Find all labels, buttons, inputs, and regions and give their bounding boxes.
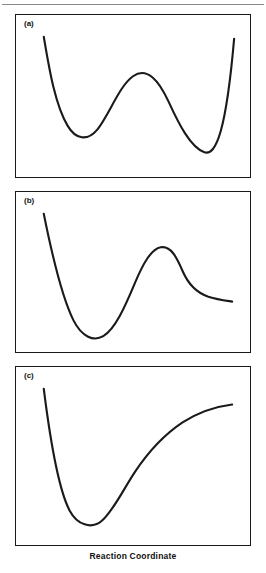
panel-b-label: (b)	[24, 196, 34, 206]
panel-a: (a)	[15, 14, 251, 178]
figure-potential-energy-curves: (a) (b) (c) Reaction Coordinate	[0, 0, 266, 573]
panel-a-curve	[16, 15, 250, 177]
panel-c-label: (c)	[24, 371, 34, 381]
x-axis-label: Reaction Coordinate	[0, 551, 266, 561]
panel-a-label: (a)	[24, 19, 34, 29]
panel-b-curve	[16, 192, 250, 352]
panel-b: (b)	[15, 191, 251, 353]
panel-c: (c)	[15, 366, 251, 546]
panel-c-curve	[16, 367, 250, 545]
top-divider-rule	[2, 4, 264, 5]
